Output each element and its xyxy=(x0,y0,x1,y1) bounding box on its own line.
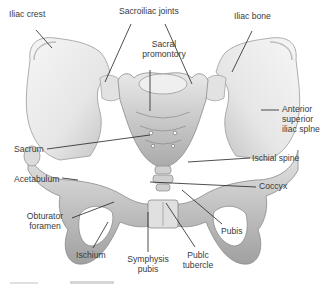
label-iliac-crest: Iliac crest xyxy=(9,9,45,19)
right-iliac-wing xyxy=(216,38,300,160)
label-sacral-promontory-line2: promontory xyxy=(135,49,193,59)
faded-caption-bar xyxy=(10,280,150,287)
label-symphysis-line2: pubis xyxy=(125,264,171,274)
label-anterior-superior-iliac-spine: Anterior superior iliac splne xyxy=(282,104,320,134)
label-symphysis-pubis: Symphysis pubis xyxy=(125,254,171,274)
label-asis-line3: iliac splne xyxy=(282,124,320,134)
label-asis-line1: Anterior xyxy=(282,104,320,114)
label-pubic-tubercle-line2: tubercle xyxy=(178,260,218,270)
label-sacral-promontory: Sacral promontory xyxy=(135,39,193,59)
coccyx-shape xyxy=(153,166,173,191)
label-obturator-line2: foramen xyxy=(20,221,70,231)
label-sacral-promontory-line1: Sacral xyxy=(135,39,193,49)
label-pubic-tubercle-line1: Publc xyxy=(178,250,218,260)
faded-caption-glyphs xyxy=(10,280,150,286)
label-sacrum: Sacrum xyxy=(14,144,44,154)
label-coccyx: Coccyx xyxy=(259,181,287,191)
label-symphysis-line1: Symphysis xyxy=(125,254,171,264)
left-lower-pelvis xyxy=(28,150,150,264)
label-sacroiliac-joints: Sacroiliac joints xyxy=(119,6,179,16)
left-iliac-wing xyxy=(26,38,110,160)
label-obturator-foramen: Obturator foramen xyxy=(20,211,70,231)
label-ischium: Ischium xyxy=(76,250,106,260)
label-obturator-line1: Obturator xyxy=(20,211,70,221)
right-lower-pelvis xyxy=(176,150,298,264)
label-pubic-tubercle: Publc tubercle xyxy=(178,250,218,270)
label-ischial-spine: Ischial spine xyxy=(252,153,299,163)
label-acetabulum: Acetabulum xyxy=(14,174,59,184)
leader-ischial-spine xyxy=(188,158,250,162)
label-iliac-bone: Iliac bone xyxy=(234,11,271,21)
leader-sacroiliac-left xyxy=(105,24,131,82)
label-pubis: Pubis xyxy=(221,226,243,236)
label-asis-line2: superior xyxy=(282,114,320,124)
sacral-promontory-body xyxy=(139,74,187,94)
